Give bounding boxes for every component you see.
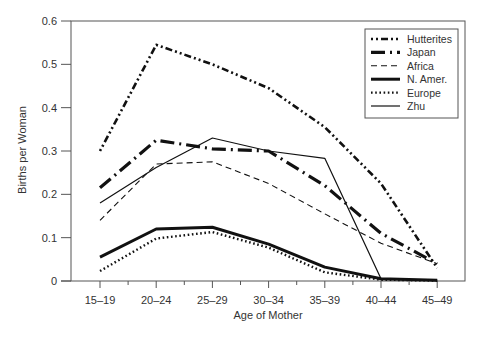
chart: 00.10.20.30.40.50.6 15–1920–2425–2930–34…	[0, 0, 483, 338]
y-tick-label: 0.5	[42, 58, 57, 70]
x-tick-label: 30–34	[253, 294, 284, 306]
y-tick-label: 0	[51, 275, 57, 287]
y-tick-label: 0.1	[42, 232, 57, 244]
y-axis: 00.10.20.30.40.50.6	[42, 15, 71, 287]
legend-label: Europe	[407, 87, 441, 99]
y-tick-label: 0.4	[42, 102, 57, 114]
x-tick-label: 20–24	[141, 294, 172, 306]
legend-label: Japan	[407, 46, 436, 58]
legend-label: Africa	[407, 60, 434, 72]
x-axis: 15–1920–2425–2930–3435–3940–4445–49	[61, 281, 452, 306]
x-tick-label: 45–49	[422, 294, 453, 306]
legend-label: N. Amer.	[407, 73, 447, 85]
x-axis-label: Age of Mother	[233, 309, 302, 321]
x-tick-label: 35–39	[310, 294, 341, 306]
x-tick-label: 15–19	[85, 294, 116, 306]
y-tick-label: 0.2	[42, 188, 57, 200]
legend-label: Zhu	[407, 100, 425, 112]
x-tick-label: 40–44	[366, 294, 397, 306]
x-tick-label: 25–29	[197, 294, 228, 306]
legend-label: Hutterites	[407, 33, 452, 45]
series-line-zhu	[100, 138, 437, 281]
series-line-europe	[100, 232, 437, 281]
legend: HutteritesJapanAfricaN. Amer.EuropeZhu	[365, 29, 458, 118]
y-tick-label: 0.6	[42, 15, 57, 27]
y-tick-label: 0.3	[42, 145, 57, 157]
series-line-africa	[100, 162, 437, 264]
y-axis-label: Births per Woman	[16, 106, 28, 194]
